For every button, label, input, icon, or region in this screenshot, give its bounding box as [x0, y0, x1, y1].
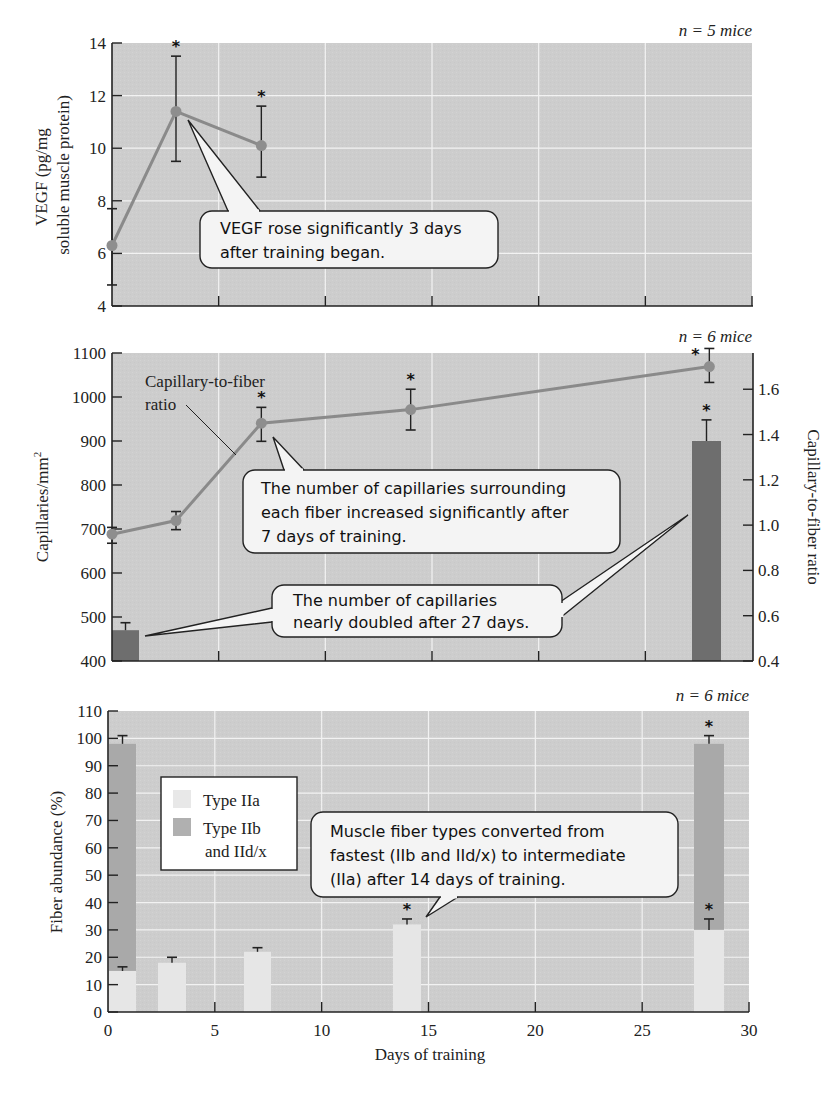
significance-asterisk: *: [702, 401, 711, 420]
y-tick-label: 600: [81, 564, 107, 583]
significance-asterisk: *: [403, 900, 412, 919]
data-point: [107, 529, 118, 540]
bar-type-iia: [158, 963, 186, 1012]
y-tick-label: 1100: [73, 344, 106, 363]
y-tick-label: 8: [98, 192, 107, 211]
capillary-bar: [112, 630, 139, 661]
y-tick-label: 500: [81, 608, 107, 627]
y-tick-label: 900: [81, 432, 107, 451]
y-tick-label: 0: [94, 1003, 103, 1022]
significance-asterisk: *: [691, 345, 700, 364]
x-tick-label: 0: [104, 1021, 113, 1040]
significance-asterisk: *: [705, 717, 714, 736]
y-tick-label: 110: [77, 702, 102, 721]
y2-tick-label: 1.2: [758, 471, 779, 490]
callout-text-line-1: The number of capillaries surrounding: [260, 479, 566, 498]
x-tick-label: 20: [527, 1021, 544, 1040]
capillary-bar: [692, 441, 721, 661]
y-tick-label: 6: [98, 244, 107, 263]
y-tick-label: 50: [85, 866, 102, 885]
callout-text-line-2: fastest (IIb and IId/x) to intermediate: [330, 846, 626, 865]
data-point: [171, 106, 182, 117]
fiber-panel: n = 6 mice *** 0102030405060708090100110…: [47, 686, 758, 1064]
legend: Type IIa Type IIb and IId/x: [161, 777, 297, 870]
y2-tick-label: 1.6: [758, 380, 779, 399]
y-axis-title: Fiber abundance (%): [47, 791, 66, 934]
y-axis-title: VEGF (pg/mg soluble muscle protein): [32, 95, 73, 255]
y2-tick-label: 1.4: [758, 426, 780, 445]
y2-axis-title: Capillary-to-fiber ratio: [804, 429, 823, 584]
legend-swatch-type-iia: [173, 790, 191, 808]
x-tick-label: 15: [420, 1021, 437, 1040]
bar-type-iia: [244, 952, 271, 1012]
legend-label-type-iia: Type IIa: [203, 791, 260, 810]
y-tick-label: 10: [85, 976, 102, 995]
figure: n = 5 mice 468101214 VEGF (pg/mg soluble…: [0, 0, 830, 1093]
significance-asterisk: *: [257, 87, 266, 106]
y-axis-title: Capillaries/mm2: [31, 452, 52, 562]
callout-text-line-1: Muscle fiber types converted from: [330, 822, 605, 841]
y2-tick-label: 1.0: [758, 516, 779, 535]
svg-text:Capillary-to-fiber: Capillary-to-fiber: [145, 372, 265, 391]
n-label: n = 5 mice: [679, 21, 753, 40]
vegf-panel: n = 5 mice 468101214 VEGF (pg/mg soluble…: [32, 21, 753, 316]
legend-swatch-type-iib: [173, 818, 191, 836]
callout-text-line-3: 7 days of training.: [261, 527, 407, 546]
bar-type-iib: [109, 744, 136, 971]
significance-asterisk: *: [172, 37, 181, 56]
n-label: n = 6 mice: [676, 686, 750, 705]
capillary-panel: n = 6 mice * 400500600700800900100011000…: [31, 327, 823, 671]
y-tick-label: 20: [85, 948, 102, 967]
y-tick-label: 90: [85, 757, 102, 776]
legend-label-type-iib-2: and IId/x: [205, 842, 267, 861]
bar-type-iia: [109, 971, 136, 1012]
callout-text-line-2: each fiber increased significantly after: [261, 503, 569, 522]
y-tick-label: 400: [81, 652, 107, 671]
svg-text:ratio: ratio: [145, 395, 176, 414]
y-tick-label: 4: [98, 297, 107, 316]
x-tick-label: 25: [634, 1021, 651, 1040]
y-tick-label: 80: [85, 784, 102, 803]
callout-text-line-3: (IIa) after 14 days of training.: [330, 870, 566, 889]
y-tick-label: 40: [85, 894, 102, 913]
y-tick-label: 14: [89, 34, 107, 53]
x-tick-label: 10: [313, 1021, 330, 1040]
y2-tick-label: 0.8: [758, 561, 779, 580]
significance-asterisk: *: [257, 388, 266, 407]
data-point: [171, 515, 182, 526]
significance-asterisk: *: [705, 900, 714, 919]
x-axis-title: Days of training: [375, 1045, 486, 1064]
callout-text-line-2: after training began.: [220, 243, 385, 262]
x-tick-label: 30: [741, 1021, 758, 1040]
data-point: [256, 418, 267, 429]
y-tick-label: 800: [81, 476, 107, 495]
x-tick-label: 5: [211, 1021, 220, 1040]
callout-text-line-1: VEGF rose significantly 3 days: [220, 219, 462, 238]
y-tick-label: 10: [89, 139, 106, 158]
y-tick-label: 700: [81, 520, 107, 539]
y-tick-label: 70: [85, 811, 102, 830]
callout-text-line-1: The number of capillaries: [292, 591, 497, 610]
y-tick-label: 1000: [72, 388, 106, 407]
data-point: [405, 404, 416, 415]
significance-asterisk: *: [406, 370, 415, 389]
y2-tick-label: 0.4: [758, 652, 780, 671]
y-tick-label: 100: [77, 729, 103, 748]
legend-label-type-iib: Type IIb: [203, 819, 261, 838]
bar-type-iia: [694, 930, 724, 1012]
n-label: n = 6 mice: [679, 327, 753, 346]
callout-text-line-2: nearly doubled after 27 days.: [293, 613, 529, 632]
y-tick-label: 60: [85, 839, 102, 858]
bar-type-iia: [393, 924, 421, 1012]
y-tick-label: 12: [89, 87, 106, 106]
data-point: [107, 240, 118, 251]
y-tick-label: 30: [85, 921, 102, 940]
y2-tick-label: 0.6: [758, 607, 779, 626]
data-point: [704, 361, 715, 372]
data-point: [256, 140, 267, 151]
